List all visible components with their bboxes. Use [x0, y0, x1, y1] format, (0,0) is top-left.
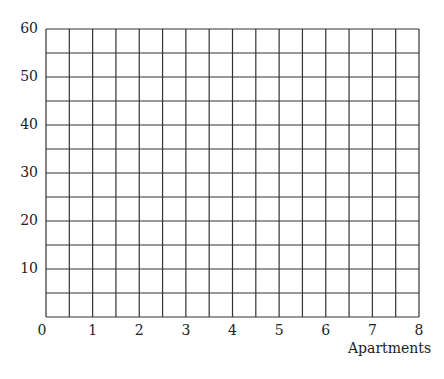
x-tick-label: 6: [316, 323, 336, 337]
x-tick-label: 4: [223, 323, 243, 337]
x-tick-label: 0: [32, 323, 52, 337]
y-tick-label: 40: [8, 117, 38, 131]
y-tick-label: 50: [8, 69, 38, 83]
y-tick-label: 60: [8, 21, 38, 35]
y-tick-label: 10: [8, 261, 38, 275]
x-tick-label: 8: [409, 323, 429, 337]
y-tick-label: 20: [8, 213, 38, 227]
x-tick-label: 3: [176, 323, 196, 337]
y-tick-label: 30: [8, 165, 38, 179]
x-tick-label: 1: [83, 323, 103, 337]
x-tick-label: 2: [129, 323, 149, 337]
x-tick-label: 7: [362, 323, 382, 337]
x-axis-label: Apartments: [348, 341, 431, 355]
x-tick-label: 5: [269, 323, 289, 337]
